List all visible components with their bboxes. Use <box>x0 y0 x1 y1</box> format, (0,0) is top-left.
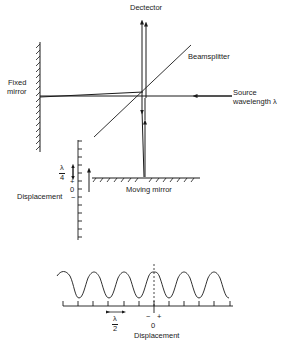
interferogram-zero: 0 <box>151 322 155 331</box>
interferogram-wave <box>57 272 229 299</box>
lambda-over-4-numerator: λ <box>60 164 64 173</box>
detector-beams <box>142 22 146 98</box>
detector-label: Dectector <box>130 4 162 13</box>
half-wavelength-denominator: 2 <box>113 325 117 334</box>
moving-mirror <box>92 178 200 182</box>
interferogram <box>57 264 233 313</box>
beamsplitter-label: Beamsplitter <box>188 53 230 62</box>
fixed-mirror <box>36 42 40 152</box>
source-beam <box>40 92 232 97</box>
interferometer-diagram <box>0 0 287 351</box>
minus-sign-vertical: − <box>71 194 75 203</box>
interferogram-minus: − <box>146 313 150 322</box>
source-label-line2: wavelength λ <box>233 98 277 107</box>
half-wavelength-numerator: λ <box>113 315 117 324</box>
interferogram-xlabel: Displacement <box>134 332 179 341</box>
lambda-over-4-denominator: 4 <box>60 174 64 183</box>
interferogram-plus: + <box>157 313 161 322</box>
moving-mirror-label: Moving mirror <box>126 186 172 195</box>
vertical-displacement-scale <box>73 140 82 240</box>
displacement-vertical-label: Displacement <box>17 193 62 202</box>
fixed-mirror-label-line2: mirror <box>7 88 27 97</box>
moving-mirror-beams <box>142 96 145 177</box>
